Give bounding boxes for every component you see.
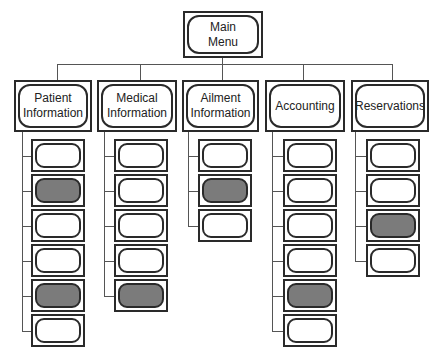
submenu-node-shaded: [283, 279, 337, 312]
submenu-node-inner: [35, 143, 81, 168]
submenu-node: [198, 139, 252, 172]
category-connector: [222, 64, 223, 80]
child-connector: [22, 191, 31, 192]
submenu-node-shaded: [198, 174, 252, 207]
category-node-reservations: Reservations: [351, 80, 429, 132]
child-connector: [22, 226, 31, 227]
submenu-node: [31, 209, 85, 242]
child-connector: [104, 191, 114, 192]
submenu-node-inner: [370, 178, 416, 203]
submenu-node: [283, 244, 337, 277]
child-connector: [188, 156, 198, 157]
main-menu-label: Main Menu: [187, 15, 259, 54]
main-menu-node: Main Menu: [183, 11, 263, 58]
submenu-node: [366, 174, 420, 207]
submenu-node: [114, 139, 168, 172]
submenu-node-inner: [118, 143, 164, 168]
child-connector: [272, 156, 283, 157]
child-connector: [272, 261, 283, 262]
submenu-node: [31, 139, 85, 172]
child-connector: [22, 331, 31, 332]
submenu-node-inner: [370, 143, 416, 168]
submenu-node: [31, 244, 85, 277]
submenu-node-inner: [118, 248, 164, 273]
child-connector: [104, 226, 114, 227]
submenu-node-inner: [35, 318, 81, 343]
child-connector: [355, 191, 366, 192]
child-connector: [272, 226, 283, 227]
submenu-node: [283, 174, 337, 207]
category-node-ailment: AilmentInformation: [182, 80, 259, 132]
submenu-node: [366, 244, 420, 277]
submenu-node-inner: [35, 283, 81, 308]
child-connector: [22, 261, 31, 262]
child-stem: [188, 132, 189, 226]
child-connector: [355, 156, 366, 157]
category-node-patient: PatientInformation: [14, 80, 92, 132]
category-connector: [57, 64, 58, 80]
submenu-node-shaded: [114, 279, 168, 312]
submenu-node: [114, 209, 168, 242]
submenu-node-inner: [287, 283, 333, 308]
submenu-node: [114, 174, 168, 207]
submenu-node: [366, 139, 420, 172]
submenu-node-inner: [35, 178, 81, 203]
submenu-node-inner: [118, 213, 164, 238]
child-connector: [272, 191, 283, 192]
submenu-node-inner: [370, 248, 416, 273]
submenu-node: [31, 314, 85, 347]
submenu-node-shaded: [366, 209, 420, 242]
submenu-node-inner: [370, 213, 416, 238]
submenu-node: [283, 314, 337, 347]
child-connector: [272, 331, 283, 332]
child-stem: [104, 132, 105, 296]
submenu-node-inner: [118, 178, 164, 203]
submenu-node-inner: [287, 143, 333, 168]
child-connector: [104, 261, 114, 262]
child-connector: [272, 296, 283, 297]
submenu-node-inner: [35, 248, 81, 273]
category-label: PatientInformation: [18, 84, 88, 128]
category-connector: [303, 64, 304, 80]
category-label: Accounting: [269, 84, 341, 128]
submenu-node: [283, 139, 337, 172]
submenu-node-inner: [202, 213, 248, 238]
submenu-node: [283, 209, 337, 242]
category-label: AilmentInformation: [186, 84, 255, 128]
horizontal-connector: [57, 64, 393, 65]
child-connector: [355, 226, 366, 227]
submenu-node-shaded: [31, 279, 85, 312]
child-stem: [355, 132, 356, 261]
submenu-node-inner: [287, 178, 333, 203]
category-node-medical: MedicalInformation: [97, 80, 177, 132]
child-connector: [22, 296, 31, 297]
submenu-node-shaded: [31, 174, 85, 207]
category-node-accounting: Accounting: [265, 80, 345, 132]
child-connector: [22, 156, 31, 157]
submenu-node-inner: [202, 178, 248, 203]
submenu-node-inner: [287, 213, 333, 238]
child-connector: [188, 226, 198, 227]
submenu-node: [114, 244, 168, 277]
child-stem: [22, 132, 23, 331]
category-label: MedicalInformation: [101, 84, 173, 128]
child-connector: [188, 191, 198, 192]
submenu-node: [198, 209, 252, 242]
child-stem: [272, 132, 273, 331]
submenu-node-inner: [118, 283, 164, 308]
submenu-node-inner: [287, 248, 333, 273]
child-connector: [104, 156, 114, 157]
category-connector: [140, 64, 141, 80]
child-connector: [104, 296, 114, 297]
child-connector: [355, 261, 366, 262]
category-label: Reservations: [355, 84, 425, 128]
submenu-node-inner: [287, 318, 333, 343]
submenu-node-inner: [35, 213, 81, 238]
submenu-node-inner: [202, 143, 248, 168]
category-connector: [392, 64, 393, 80]
